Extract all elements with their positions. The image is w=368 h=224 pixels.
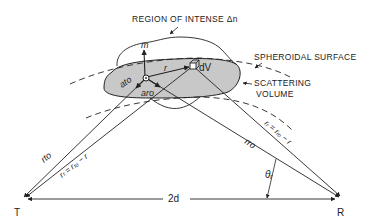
- spheroidal-surface-inner: [86, 97, 292, 130]
- spheroidal-surface-label: SPHEROIDAL SURFACE: [254, 52, 356, 62]
- scattering-volume-label-2: VOLUME: [256, 89, 294, 99]
- scattering-geometry-diagram: REGION OF INTENSE Δn SPHEROIDAL SURFACE …: [0, 0, 368, 224]
- ray-r-to: [24, 78, 146, 197]
- region-label: REGION OF INTENSE Δn: [132, 14, 238, 24]
- receiver-label: R: [337, 207, 344, 218]
- r-t-equation-label: rₜ = rₜₒ − r: [58, 152, 90, 180]
- m-vector-label: m: [141, 40, 149, 50]
- volume-leader: [243, 83, 252, 84]
- baseline-label: 2d: [168, 193, 179, 204]
- dv-label: dV: [199, 62, 212, 73]
- region-leader: [170, 27, 178, 34]
- r-r-equation-label: rᵣ = rᵣₒ − r: [263, 119, 294, 147]
- r-ro-label: rro: [243, 136, 258, 150]
- spheroid-leader: [255, 63, 262, 68]
- theta-r-label: θᵣ: [265, 169, 273, 180]
- ray-r-ro: [146, 78, 339, 197]
- scattering-volume-label-1: SCATTERING: [254, 78, 311, 88]
- r-to-label: rto: [39, 150, 53, 164]
- transmitter-label: T: [14, 207, 20, 218]
- a-ro-label: aro: [141, 88, 154, 98]
